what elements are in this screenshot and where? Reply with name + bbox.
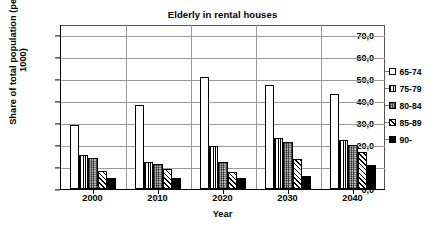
bar [107, 178, 116, 189]
legend-item[interactable]: 75-79 [389, 80, 421, 97]
plot-area [60, 25, 385, 190]
bar [339, 140, 348, 189]
bar [348, 145, 357, 189]
legend-item[interactable]: 90- [389, 131, 421, 148]
bar [237, 178, 246, 189]
bar [200, 77, 209, 189]
x-axis-tick-label: 2040 [323, 193, 383, 203]
legend-swatch [389, 85, 396, 92]
legend-label: 85-89 [400, 118, 422, 128]
bar-group [126, 25, 191, 189]
legend-label: 90- [400, 135, 412, 145]
chart-title: Elderly in rental houses [60, 9, 385, 20]
bar [302, 176, 311, 189]
bar [209, 146, 218, 189]
legend-swatch [389, 136, 396, 143]
x-axis-tick-mark [223, 190, 224, 194]
bar [265, 85, 274, 189]
bar [293, 159, 302, 189]
legend-item[interactable]: 85-89 [389, 114, 421, 131]
x-axis-tick-mark [288, 190, 289, 194]
legend-label: 75-79 [400, 84, 422, 94]
legend-swatch [389, 119, 396, 126]
bar-group [191, 25, 256, 189]
bar [163, 169, 172, 189]
legend-item[interactable]: 65-74 [389, 63, 421, 80]
legend-label: 80-84 [400, 101, 422, 111]
y-axis-title-line2: 1000) [18, 48, 28, 72]
bar [367, 165, 376, 189]
bar [358, 152, 367, 189]
legend-swatch [389, 102, 396, 109]
bar [98, 171, 107, 189]
bar [144, 162, 153, 189]
chart-container: Elderly in rental houses Share of total … [0, 0, 437, 234]
legend-label: 65-74 [400, 67, 422, 77]
bar [330, 94, 339, 189]
x-axis-title: Year [60, 209, 385, 219]
bar [274, 138, 283, 189]
x-axis-tick-label: 2010 [128, 193, 188, 203]
chart-legend: 65-7475-7980-8485-8990- [389, 63, 421, 148]
bar-group [61, 25, 126, 189]
x-axis-tick-mark [353, 190, 354, 194]
y-axis-title: Share of total population (per 1000) [4, 0, 32, 135]
bar [70, 125, 79, 189]
bar [283, 142, 292, 189]
bar-group [256, 25, 321, 189]
bar [172, 178, 181, 189]
bar [218, 162, 227, 189]
x-axis-tick-mark [93, 190, 94, 194]
x-axis-tick-mark [158, 190, 159, 194]
x-axis-tick-label: 2020 [193, 193, 253, 203]
x-axis-tick-label: 2030 [258, 193, 318, 203]
bar [153, 164, 162, 189]
bar [79, 155, 88, 189]
bar-group [321, 25, 386, 189]
legend-swatch [389, 68, 396, 75]
x-axis-tick-label: 2000 [63, 193, 123, 203]
bar [135, 105, 144, 189]
legend-item[interactable]: 80-84 [389, 97, 421, 114]
bar [88, 158, 97, 189]
y-axis-title-line1: Share of total population (per [8, 0, 18, 125]
bar [228, 172, 237, 189]
